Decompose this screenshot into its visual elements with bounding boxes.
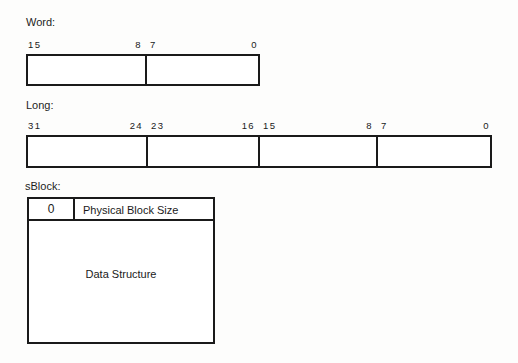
long-byte-divider-2 bbox=[258, 137, 260, 166]
diagram-canvas: Word: 15 8 7 0 Long: 31 24 23 16 15 8 7 … bbox=[0, 0, 518, 363]
sblock-data-structure-label: Data Structure bbox=[29, 268, 213, 281]
long-bit-label-15: 15 bbox=[263, 120, 276, 131]
long-bit-label-23: 23 bbox=[151, 120, 164, 131]
sblock-flag-value: 0 bbox=[29, 203, 73, 216]
word-bit-label-0: 0 bbox=[212, 39, 258, 50]
word-field-box bbox=[26, 54, 260, 86]
long-byte-divider-1 bbox=[146, 137, 148, 166]
word-bit-label-8: 8 bbox=[100, 39, 142, 50]
long-field-box bbox=[26, 135, 492, 168]
long-bit-label-7: 7 bbox=[381, 120, 388, 131]
sblock-box: 0 Physical Block Size Data Structure bbox=[27, 197, 215, 344]
long-bit-label-16: 16 bbox=[212, 120, 255, 131]
word-bit-label-7: 7 bbox=[150, 39, 157, 50]
long-bit-label-8: 8 bbox=[330, 120, 373, 131]
sblock-section-caption: sBlock: bbox=[25, 180, 60, 193]
word-bit-label-15: 15 bbox=[28, 39, 41, 50]
long-bit-label-31: 31 bbox=[28, 120, 41, 131]
sblock-flag-divider bbox=[73, 199, 75, 219]
word-byte-divider bbox=[145, 56, 147, 84]
sblock-physical-block-size-label: Physical Block Size bbox=[83, 204, 178, 217]
long-bit-label-24: 24 bbox=[100, 120, 143, 131]
word-section-caption: Word: bbox=[26, 16, 55, 29]
long-byte-divider-3 bbox=[376, 137, 378, 166]
long-bit-label-0: 0 bbox=[444, 120, 490, 131]
long-section-caption: Long: bbox=[26, 99, 54, 112]
